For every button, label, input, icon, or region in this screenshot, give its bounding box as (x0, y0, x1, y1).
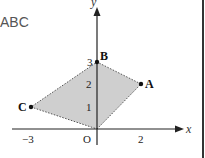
point-a (139, 82, 143, 86)
point-c (29, 105, 33, 109)
x-axis-arrow-icon (175, 126, 184, 133)
x-tick-neg3: −3 (22, 133, 34, 145)
y-tick-2: 2 (86, 78, 92, 90)
quadrilateral-oabc (31, 62, 141, 129)
y-tick-1: 1 (86, 101, 92, 113)
point-b (95, 60, 99, 64)
right-border-line (202, 0, 204, 158)
point-b-label: B (100, 49, 108, 63)
point-c-label: C (18, 100, 27, 114)
coordinate-diagram: x y O −3 2 1 2 3 B A C (0, 0, 205, 158)
origin-label: O (83, 133, 91, 145)
x-axis-label: x (185, 122, 192, 136)
y-axis-label: y (90, 0, 97, 9)
x-tick-2: 2 (138, 133, 144, 145)
y-tick-3: 3 (87, 56, 93, 68)
point-a-label: A (145, 77, 154, 91)
